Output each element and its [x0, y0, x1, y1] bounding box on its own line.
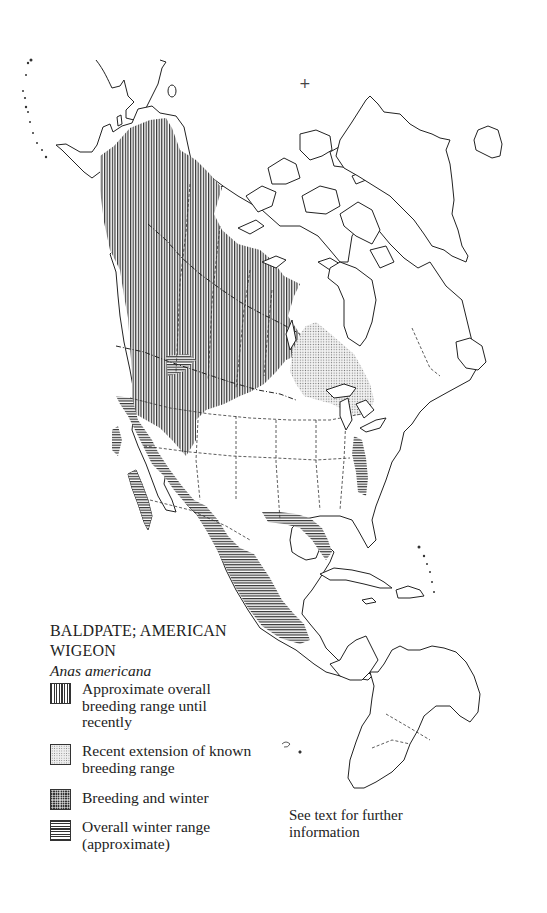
- species-common-name-line2: WIGEON: [50, 641, 227, 661]
- legend-label: Approximate overall breeding range until…: [82, 681, 282, 731]
- species-scientific-name: Anas americana: [50, 661, 227, 680]
- legend-label: Recent extension of known breeding range: [82, 743, 282, 776]
- species-title-block: BALDPATE; AMERICAN WIGEON Anas americana: [50, 621, 227, 680]
- species-common-name-line1: BALDPATE; AMERICAN: [50, 621, 227, 641]
- see-text-note: See text for further information: [289, 807, 489, 841]
- legend-label: Breeding and winter: [82, 790, 282, 807]
- central-south-america-coast: [330, 636, 480, 788]
- horizontal-lines-swatch-icon: [50, 820, 71, 841]
- minor-islands: [282, 742, 301, 753]
- legend-label: Overall winter range (approximate): [82, 819, 282, 852]
- vertical-lines-swatch-icon: [50, 683, 71, 704]
- iceland: [474, 126, 502, 158]
- crosshatch-swatch-icon: [50, 789, 71, 810]
- north-pole-marker: +: [299, 76, 311, 90]
- aleutian-islands: [22, 59, 47, 159]
- stipple-swatch-icon: [50, 744, 71, 765]
- range-map: [0, 0, 547, 913]
- caribbean-islands: [320, 546, 435, 605]
